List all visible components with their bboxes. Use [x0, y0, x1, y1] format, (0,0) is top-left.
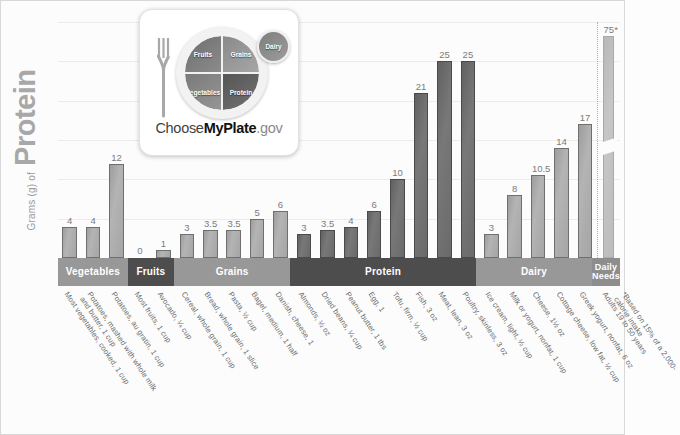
bar-slot: 4 — [58, 22, 81, 258]
bar[interactable]: 8 — [507, 195, 522, 258]
bar[interactable]: 17 — [578, 124, 593, 258]
bar-value-label: 3 — [485, 222, 498, 233]
bar-slot: 17 — [573, 22, 596, 258]
bar[interactable]: 4 — [62, 227, 77, 258]
bar[interactable]: 4 — [86, 227, 101, 258]
bar[interactable]: 25 — [461, 61, 476, 258]
tick-slot: Cheese, 1½ oz — [526, 288, 549, 433]
bar-value-label: 8 — [508, 183, 521, 194]
bar-value-label: 6 — [274, 199, 287, 210]
tick-slot: Meat, lean, 3 oz — [433, 288, 456, 433]
wordmark-myplate: MyPlate — [204, 120, 257, 136]
tick-slot: Most fruits, 1 cup — [128, 288, 151, 433]
bar-slot: 10 — [386, 22, 409, 258]
bar[interactable]: 10 — [390, 179, 405, 258]
bar-slot: 4 — [339, 22, 362, 258]
category-band-dairy: Dairy — [476, 258, 592, 286]
bar-value-label: 4 — [87, 215, 100, 226]
tick-slot: Avocado, ¼ cup — [152, 288, 175, 433]
plate-graphic: Fruits Grains Vegetables Protein — [176, 27, 268, 119]
bar-value-label: 14 — [555, 136, 568, 147]
bar-value-label: 3.5 — [321, 218, 334, 229]
tick-slot: Peanut butter, 1 tbs — [339, 288, 362, 433]
bar-value-label: 4 — [345, 215, 358, 226]
dairy-circle: Dairy — [257, 30, 290, 63]
bar[interactable]: 75* — [603, 36, 615, 258]
bar-value-label: 17 — [579, 112, 592, 123]
bar-value-label: 3 — [298, 222, 311, 233]
bar[interactable]: 5 — [250, 219, 265, 258]
tick-slot: Danish, cheese, 1 — [269, 288, 292, 433]
bar[interactable]: 6 — [273, 211, 288, 258]
tick-slot: Most vegetables, cooked, 1 cup — [58, 288, 81, 433]
bar-value-label: 12 — [110, 152, 123, 163]
category-band-daily-needs: DailyNeeds — [592, 258, 620, 286]
bar-value-label: 3 — [181, 222, 194, 233]
tick-slot: Cottage cheese, low fat, ½ cup — [550, 288, 573, 433]
bar[interactable]: 10.5 — [531, 175, 546, 258]
category-band-fruits: Fruits — [128, 258, 174, 286]
bar[interactable]: 12 — [109, 164, 124, 258]
wordmark-choose: Choose — [155, 120, 203, 136]
bar-slot: 3 — [480, 22, 503, 258]
bar[interactable]: 6 — [367, 211, 382, 258]
tick-slot: Dried beans, ¼ cup — [316, 288, 339, 433]
bar[interactable]: 3 — [297, 234, 312, 258]
tick-slot: Poultry, skinless, 3 oz — [456, 288, 479, 433]
y-axis-title-main: Protein — [9, 70, 42, 166]
bar[interactable]: 14 — [554, 148, 569, 258]
bar-value-label: 21 — [415, 81, 428, 92]
bar[interactable]: 3 — [180, 234, 195, 258]
fork-icon — [157, 36, 170, 118]
tick-slot: Cereal, whole grain, 1 cup — [175, 288, 198, 433]
bar[interactable]: 25 — [437, 61, 452, 258]
y-axis-title-small: Grams (g) of — [26, 172, 37, 231]
bar-slot: 25 — [433, 22, 456, 258]
tick-slot: Milk or yogurt, nonfat, 1 cup — [503, 288, 526, 433]
y-axis-title: Grams (g) of Protein — [9, 35, 49, 265]
wordmark-gov: .gov — [256, 120, 282, 136]
bar[interactable]: 21 — [414, 93, 429, 258]
bar-value-label: 75* — [604, 24, 614, 35]
bar[interactable]: 1 — [156, 250, 171, 258]
myplate-wordmark: ChooseMyPlate.gov — [140, 120, 298, 136]
plate-quadrants: Fruits Grains Vegetables Protein — [185, 36, 259, 110]
bar-value-label: 0 — [133, 245, 148, 256]
bar-value-label: 25 — [462, 49, 475, 60]
bar-value-label: 25 — [438, 49, 451, 60]
bar[interactable]: 3.5 — [320, 230, 335, 258]
x-tick-label: Egg, 1 — [367, 290, 387, 314]
tick-slot: Adults 19 to 50 years*Based on 15% of a … — [597, 288, 620, 433]
tick-slot: Bread, whole grain, 1 slice — [199, 288, 222, 433]
bar-slot: 8 — [503, 22, 526, 258]
tick-slot: Potatoes, au gratin, 1 cup — [105, 288, 128, 433]
bar-value-label: 1 — [157, 238, 170, 249]
tick-slot: Fish, 3 oz — [409, 288, 432, 433]
tick-slot: Bagel, medium, 1 half — [245, 288, 268, 433]
bar[interactable]: 3.5 — [203, 230, 218, 258]
tick-slot: Almonds, ½ oz — [292, 288, 315, 433]
category-bands: VegetablesFruitsGrainsProteinDairyDailyN… — [58, 258, 620, 286]
bar-slot: 6 — [362, 22, 385, 258]
bar-slot: 21 — [409, 22, 432, 258]
tick-slot: Ice cream, light, ½ cup — [480, 288, 503, 433]
tick-slot: Pasta, ½ cup — [222, 288, 245, 433]
bar-slot: 12 — [105, 22, 128, 258]
bar-value-label: 3.5 — [227, 218, 240, 229]
x-axis-tick-labels: Most vegetables, cooked, 1 cupPotatoes, … — [58, 288, 620, 433]
tick-slot: Egg, 1 — [362, 288, 385, 433]
category-band-grains: Grains — [174, 258, 290, 286]
bar-value-label: 4 — [63, 215, 76, 226]
bar-slot: 10.5 — [526, 22, 549, 258]
bar-slot: 14 — [550, 22, 573, 258]
bar-slot: 25 — [456, 22, 479, 258]
bar[interactable]: 3.5 — [226, 230, 241, 258]
bar-value-label: 5 — [251, 207, 264, 218]
myplate-logo: Fruits Grains Vegetables Protein Dairy C… — [139, 9, 299, 156]
bar[interactable]: 3 — [484, 234, 499, 258]
bar-slot: 3.5 — [316, 22, 339, 258]
bar-value-label: 10.5 — [532, 163, 545, 174]
tick-slot: Greek yogurt, nonfat, 6 oz — [573, 288, 596, 433]
bar[interactable]: 4 — [344, 227, 359, 258]
bar-slot: 4 — [81, 22, 104, 258]
